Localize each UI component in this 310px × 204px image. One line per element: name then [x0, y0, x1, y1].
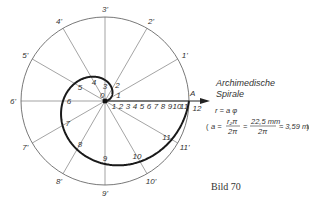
scale-labels: 1234567891011 — [112, 102, 188, 111]
outer-label: 5' — [22, 51, 28, 60]
spiral-labels: 1234567891011 — [66, 78, 171, 163]
formula-eq: = — [243, 122, 248, 131]
scale-label: 3 — [126, 102, 131, 111]
svg-text:): ) — [307, 122, 310, 131]
outer-label: 3' — [102, 5, 108, 14]
scale-label: 1 — [112, 102, 116, 111]
spiral-label: 10 — [133, 152, 142, 161]
outer-label: 11' — [180, 143, 190, 152]
spiral-label: 11 — [162, 133, 170, 142]
spiral-label: 9 — [103, 154, 108, 163]
spiral-label: 5 — [78, 83, 83, 92]
formula-frac1-den: 2π — [227, 127, 238, 136]
outer-label: 6' — [10, 97, 16, 106]
scale-label: 6 — [147, 102, 152, 111]
formula-frac1-num: r₂π — [227, 117, 238, 126]
formula: ( a = r₂π 2π = 22,5 mm 2π ≈ 3,59 mm ) — [206, 117, 309, 136]
outer-label: 7' — [22, 143, 28, 152]
spiral-label: 3 — [103, 82, 108, 91]
outer-label: 8' — [56, 177, 62, 186]
formula-lhs: a = — [211, 122, 222, 131]
spiral-label: 1 — [116, 91, 120, 100]
arrow-icon — [200, 98, 210, 104]
outer-label: 2' — [147, 17, 154, 26]
spiral-label: 2 — [114, 81, 120, 90]
archimedean-spiral-diagram: 1'2'3'4'5'6'7'8'9'10'11'12 1234567891011… — [0, 0, 309, 204]
formula-frac2-den: 2π — [257, 127, 268, 136]
scale-label: 11 — [180, 102, 188, 111]
scale-label: 8 — [161, 102, 166, 111]
scale-label: 4 — [133, 102, 138, 111]
end-point-label: A — [189, 89, 195, 98]
center-label: 0 — [100, 91, 105, 100]
formula-frac2-num: 22,5 mm — [250, 117, 280, 126]
formula-approx: ≈ 3,59 mm — [279, 122, 309, 131]
outer-label: 9' — [102, 189, 108, 198]
title-line2: Spirale — [216, 89, 244, 99]
radial-line — [105, 101, 147, 174]
outer-label: 10' — [146, 177, 157, 186]
spiral-label: 7 — [66, 119, 71, 128]
scale-label: 2 — [118, 102, 124, 111]
outer-label: 12 — [193, 104, 202, 113]
spiral-label: 8 — [78, 140, 83, 149]
spiral-label: 6 — [67, 97, 72, 106]
svg-text:(: ( — [206, 122, 209, 131]
caption: Bild 70 — [211, 181, 241, 192]
outer-label: 1' — [182, 51, 188, 60]
spiral-label: 4 — [92, 78, 97, 87]
title-line1: Archimedische — [215, 78, 275, 88]
equation: r = a φ — [215, 106, 237, 115]
scale-label: 5 — [140, 102, 145, 111]
scale-label: 7 — [154, 102, 159, 111]
outer-label: 4' — [56, 17, 62, 26]
